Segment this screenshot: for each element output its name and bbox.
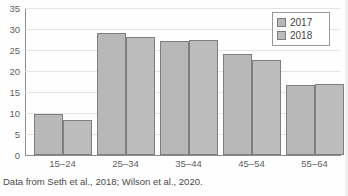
- x-axis-line: [25, 155, 341, 156]
- legend-item: 2017: [277, 16, 325, 29]
- bar-group: [160, 8, 218, 155]
- cropped-title: [0, 0, 348, 7]
- y-tick-label: 0: [0, 151, 20, 160]
- legend-swatch-icon: [277, 31, 286, 40]
- bar-group: [97, 8, 155, 155]
- bar: [286, 85, 315, 155]
- y-tick-label: 30: [0, 25, 20, 34]
- chart-figure: 05101520253035 15–2425–3435–4445–5455–64…: [0, 0, 348, 196]
- bar: [223, 54, 252, 155]
- bar: [34, 114, 63, 155]
- y-tick-label: 20: [0, 67, 20, 76]
- bar-group: [34, 8, 92, 155]
- legend-item-label: 2017: [290, 17, 312, 28]
- bar: [126, 37, 155, 155]
- legend-swatch-icon: [277, 18, 286, 27]
- bar: [252, 60, 281, 155]
- legend-item: 2018: [277, 29, 325, 42]
- y-tick-label: 25: [0, 46, 20, 55]
- legend-item-label: 2018: [290, 30, 312, 41]
- chart-legend: 2017 2018: [272, 12, 330, 46]
- x-tick-label: 55–64: [275, 158, 348, 169]
- bar: [160, 41, 189, 155]
- source-caption: Data from Seth et al., 2018; Wilson et a…: [3, 176, 203, 187]
- bar: [63, 120, 92, 155]
- bar: [97, 33, 126, 155]
- y-tick-label: 10: [0, 109, 20, 118]
- y-tick-label: 5: [0, 130, 20, 139]
- y-tick-label: 15: [0, 88, 20, 97]
- bar: [189, 40, 218, 156]
- bar: [315, 84, 344, 155]
